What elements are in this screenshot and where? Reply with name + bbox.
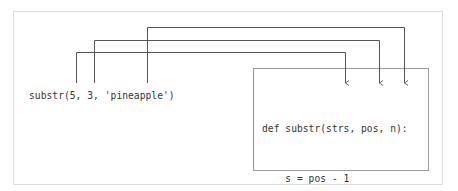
function-call-code: substr(5, 3, 'pineapple') — [29, 88, 175, 105]
arrow-arg2-to-pos — [95, 41, 380, 84]
function-definition-code: def substr(strs, pos, n): s = pos - 1 e … — [262, 88, 408, 191]
arrow-arg3-to-n — [148, 28, 405, 84]
code-line-s: s = pos - 1 — [262, 171, 408, 188]
code-line-def: def substr(strs, pos, n): — [262, 121, 408, 138]
arrow-arg1-to-strs — [77, 53, 346, 84]
